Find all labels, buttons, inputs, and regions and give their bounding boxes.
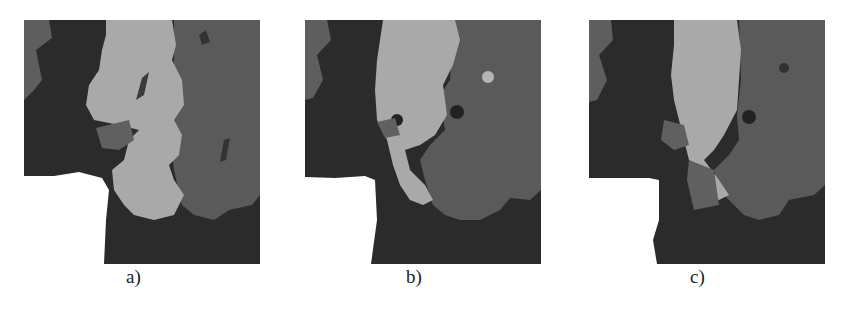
panel-a (24, 20, 260, 264)
panel-b (305, 20, 541, 264)
segmentation-map-c (589, 20, 825, 264)
caption-b: b) (406, 266, 422, 288)
caption-a: a) (126, 266, 141, 288)
caption-c: c) (690, 266, 705, 288)
segmentation-map-a (24, 20, 260, 264)
panel-c (589, 20, 825, 264)
segmentation-map-b (305, 20, 541, 264)
